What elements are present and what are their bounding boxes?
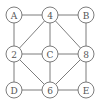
graph-diagram: A4B2C8D6E (0, 0, 99, 101)
node-label: C (47, 50, 54, 60)
node-label: 2 (11, 50, 17, 60)
node-4: 4 (42, 7, 58, 23)
node-C: C (42, 46, 58, 62)
node-label: 8 (83, 50, 89, 60)
node-6: 6 (42, 82, 58, 98)
node-B: B (78, 7, 94, 23)
node-label: 4 (47, 11, 53, 21)
node-2: 2 (6, 46, 22, 62)
node-label: 6 (47, 86, 53, 96)
node-layer: A4B2C8D6E (6, 7, 94, 98)
node-label: D (10, 86, 17, 96)
node-D: D (6, 82, 22, 98)
node-A: A (6, 7, 22, 23)
node-label: A (10, 11, 18, 21)
node-E: E (78, 82, 94, 98)
node-label: B (83, 11, 90, 21)
node-8: 8 (78, 46, 94, 62)
node-label: E (83, 86, 90, 96)
